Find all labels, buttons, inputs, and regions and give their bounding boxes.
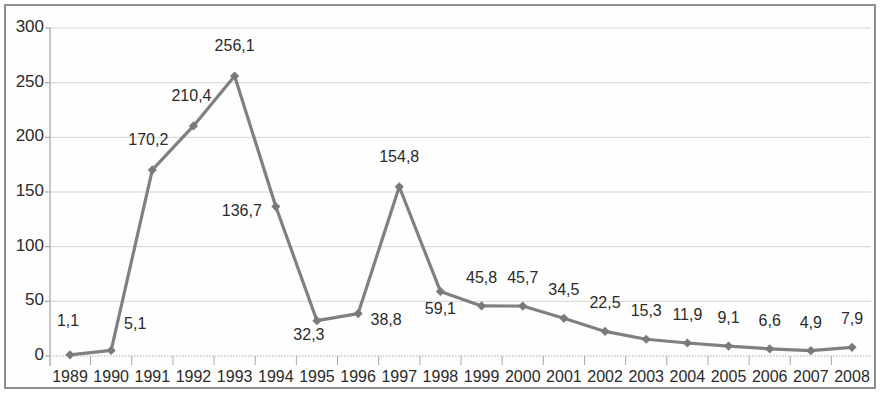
data-point-marker bbox=[395, 182, 404, 191]
data-point-value-label: 1,1 bbox=[40, 312, 96, 330]
data-point-marker bbox=[518, 301, 527, 310]
y-axis-tick-label: 50 bbox=[4, 290, 44, 310]
data-point-value-label: 59,1 bbox=[412, 300, 468, 318]
data-point-marker bbox=[642, 335, 651, 344]
y-axis-tick-label: 250 bbox=[4, 72, 44, 92]
x-axis-tick-label: 1993 bbox=[212, 368, 258, 386]
data-point-marker bbox=[477, 301, 486, 310]
data-point-marker bbox=[107, 346, 116, 355]
x-axis-tick-label: 2000 bbox=[500, 368, 546, 386]
x-axis-tick-label: 1989 bbox=[47, 368, 93, 386]
data-point-value-label: 7,9 bbox=[824, 310, 880, 328]
data-point-marker bbox=[765, 344, 774, 353]
data-point-marker bbox=[724, 341, 733, 350]
x-axis-tick-label: 1998 bbox=[417, 368, 463, 386]
x-axis-tick-label: 1991 bbox=[129, 368, 175, 386]
data-point-value-label: 136,7 bbox=[214, 202, 270, 220]
x-axis-tick-label: 2002 bbox=[582, 368, 628, 386]
data-point-value-label: 5,1 bbox=[107, 315, 163, 333]
plot-area bbox=[0, 0, 885, 408]
data-point-value-label: 154,8 bbox=[371, 148, 427, 166]
data-point-marker bbox=[559, 314, 568, 323]
data-point-marker bbox=[312, 316, 321, 325]
y-axis-tick-label: 200 bbox=[4, 126, 44, 146]
y-axis-tick-label: 0 bbox=[4, 345, 44, 365]
x-axis-tick-label: 1990 bbox=[88, 368, 134, 386]
data-point-value-label: 210,4 bbox=[163, 87, 219, 105]
x-axis-tick-label: 2004 bbox=[664, 368, 710, 386]
x-axis-tick-label: 2005 bbox=[706, 368, 752, 386]
data-point-value-label: 256,1 bbox=[207, 37, 263, 55]
data-point-marker bbox=[600, 327, 609, 336]
x-axis-tick-label: 2008 bbox=[829, 368, 875, 386]
data-point-marker bbox=[683, 338, 692, 347]
data-point-marker bbox=[271, 202, 280, 211]
x-axis-tick-label: 1997 bbox=[376, 368, 422, 386]
x-axis-tick-label: 1992 bbox=[170, 368, 216, 386]
data-point-marker bbox=[436, 287, 445, 296]
y-axis-tick-label: 300 bbox=[4, 17, 44, 37]
y-axis-tick-label: 150 bbox=[4, 181, 44, 201]
x-axis-tick-label: 2007 bbox=[788, 368, 834, 386]
x-axis-tick-label: 2006 bbox=[747, 368, 793, 386]
x-axis-tick-label: 1994 bbox=[253, 368, 299, 386]
data-point-value-label: 170,2 bbox=[120, 131, 176, 149]
x-axis-tick-label: 1999 bbox=[459, 368, 505, 386]
data-point-value-label: 38,8 bbox=[358, 311, 414, 329]
y-axis-tick-label: 100 bbox=[4, 236, 44, 256]
x-axis-tick-label: 2001 bbox=[541, 368, 587, 386]
x-axis-tick-label: 1995 bbox=[294, 368, 340, 386]
data-point-marker bbox=[806, 346, 815, 355]
data-point-marker bbox=[65, 350, 74, 359]
x-axis-tick-label: 2003 bbox=[623, 368, 669, 386]
data-point-marker bbox=[847, 343, 856, 352]
line-chart-figure: 050100150200250300 198919901991199219931… bbox=[0, 0, 885, 408]
x-tick-marks-group bbox=[91, 356, 832, 365]
x-axis-tick-label: 1996 bbox=[335, 368, 381, 386]
data-point-value-label: 32,3 bbox=[281, 326, 337, 344]
